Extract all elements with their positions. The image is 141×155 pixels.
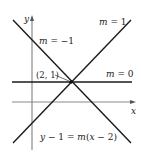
slope-label-1: m = 1 xyxy=(99,17,127,27)
x-axis-arrow-icon xyxy=(130,100,136,104)
slope-label-neg1: m = −1 xyxy=(39,36,74,46)
point-label: (2, 1) xyxy=(36,70,59,80)
point-slope-equation: y − 1 = m(x − 2) xyxy=(39,132,117,142)
point-2-1 xyxy=(69,80,73,84)
y-axis-arrow-icon xyxy=(30,15,34,21)
slope-label-0: m = 0 xyxy=(106,69,134,79)
x-axis-label: x xyxy=(131,106,136,116)
point-slope-diagram: y x (2, 1) m = 1 m = −1 m = 0 y − 1 = m(… xyxy=(0,0,141,155)
y-axis-label: y xyxy=(23,14,30,24)
